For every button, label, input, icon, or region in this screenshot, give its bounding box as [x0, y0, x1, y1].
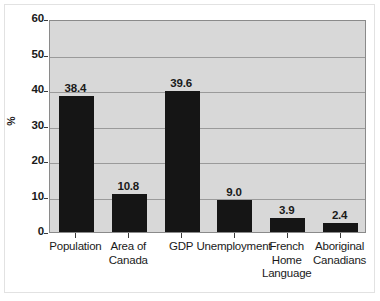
bar-value-label: 3.9 — [257, 204, 317, 216]
y-axis-tick-mark — [44, 198, 48, 199]
y-axis-tick-label: 60 — [32, 12, 44, 24]
x-axis-category-label: Aboriginal Canadians — [301, 240, 379, 267]
bar — [323, 223, 358, 232]
y-axis-tick-mark — [44, 56, 48, 57]
x-axis-tick-mark — [234, 233, 235, 238]
plot-area — [49, 20, 366, 233]
gridline — [50, 163, 365, 164]
y-axis-tick-label: 30 — [32, 119, 44, 131]
bar-value-label: 38.4 — [45, 82, 105, 94]
y-axis-tick-label: 0 — [38, 225, 44, 237]
y-axis-tick-label: 50 — [32, 48, 44, 60]
y-axis-tick-mark — [44, 233, 48, 234]
x-axis-tick-mark — [128, 233, 129, 238]
x-axis-tick-mark — [75, 233, 76, 238]
y-axis-ticks: 0102030405060 — [22, 20, 44, 233]
bar — [270, 218, 305, 232]
x-axis-tick-mark — [181, 233, 182, 238]
y-axis-tick-label: 40 — [32, 83, 44, 95]
bar — [217, 200, 252, 232]
gridline — [50, 199, 365, 200]
gridline — [50, 57, 365, 58]
y-axis-title: % — [5, 116, 17, 125]
y-axis-tick-label: 10 — [32, 190, 44, 202]
bar — [112, 194, 147, 232]
y-axis-tick-mark — [44, 162, 48, 163]
bar — [165, 91, 200, 232]
y-axis-tick-mark — [44, 20, 48, 21]
bar-value-label: 2.4 — [310, 209, 370, 221]
bar-value-label: 9.0 — [204, 186, 264, 198]
bar-value-label: 10.8 — [98, 180, 158, 192]
x-axis-tick-mark — [340, 233, 341, 238]
bar-chart-figure: % 0102030405060 38.4Population10.8Area o… — [0, 0, 380, 301]
x-axis-tick-mark — [287, 233, 288, 238]
bar-value-label: 39.6 — [151, 77, 211, 89]
bar — [59, 96, 94, 232]
y-axis-tick-mark — [44, 127, 48, 128]
y-axis-tick-label: 20 — [32, 154, 44, 166]
gridline — [50, 128, 365, 129]
